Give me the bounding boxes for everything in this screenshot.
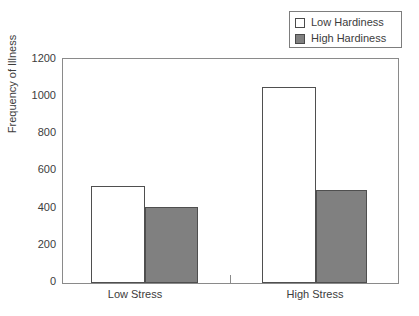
y-tick-label-800: 800 (24, 127, 56, 138)
y-tick-label-1200: 1200 (24, 53, 56, 64)
y-tick-label-0: 0 (24, 276, 56, 287)
bar-high-stress-low-hardiness (262, 87, 316, 283)
bar-low-stress-low-hardiness (91, 186, 145, 283)
bar-low-stress-high-hardiness (145, 207, 198, 283)
x-axis-center-tick (230, 275, 231, 283)
y-axis-tick-labels: 1200 1000 800 600 400 200 0 (22, 58, 56, 282)
y-tick-label-400: 400 (24, 202, 56, 213)
y-tick-label-200: 200 (24, 239, 56, 250)
x-tick-label-high-stress: High Stress (275, 289, 355, 300)
bar-chart-figure: Low Hardiness High Hardiness Frequency o… (0, 0, 419, 316)
chart-legend: Low Hardiness High Hardiness (289, 11, 402, 48)
y-tick-label-600: 600 (24, 164, 56, 175)
x-tick-label-low-stress: Low Stress (95, 289, 175, 300)
bars-layer (62, 58, 398, 283)
legend-label-low-hardiness: Low Hardiness (311, 17, 384, 28)
legend-item-high-hardiness: High Hardiness (295, 31, 396, 46)
bar-high-stress-high-hardiness (316, 190, 367, 283)
legend-label-high-hardiness: High Hardiness (311, 33, 386, 44)
legend-swatch-low-hardiness (295, 18, 305, 28)
legend-item-low-hardiness: Low Hardiness (295, 15, 396, 30)
y-axis-title: Frequency of Illness (6, 14, 18, 154)
y-tick-label-1000: 1000 (24, 90, 56, 101)
legend-swatch-high-hardiness (295, 34, 305, 44)
